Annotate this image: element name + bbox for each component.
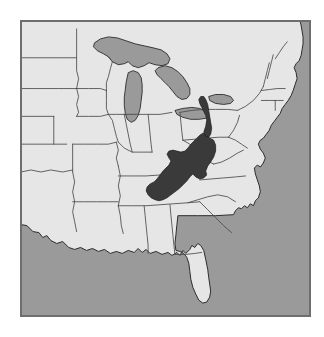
map-panel — [20, 20, 311, 317]
map-svg — [21, 21, 310, 316]
figure-container — [0, 0, 324, 337]
